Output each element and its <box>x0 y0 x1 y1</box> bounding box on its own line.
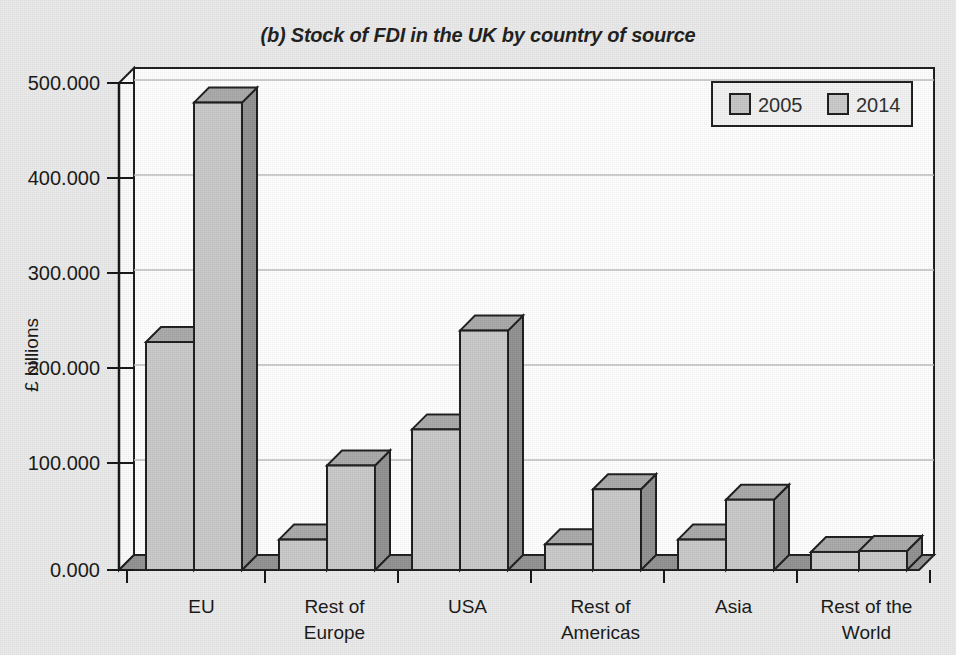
bar-side-face <box>375 451 390 571</box>
bar-front-face <box>460 331 508 570</box>
bar-2014-eu[interactable] <box>194 88 257 570</box>
y-axis-title: £ billions <box>21 318 42 392</box>
category-label-4: Asia <box>715 596 752 617</box>
bar-front-face <box>545 544 593 570</box>
category-label-3: Rest ofAmericas <box>561 596 640 643</box>
bar-front-face <box>146 342 194 570</box>
category-label-5: Rest of theWorld <box>821 596 913 643</box>
y-tick-label-300: 300.000 <box>28 262 100 284</box>
legend-label-2005: 2005 <box>758 94 803 116</box>
bar-2014-rest-of-americas[interactable] <box>593 474 656 570</box>
bar-2014-usa[interactable] <box>460 316 523 570</box>
category-label-0: EU <box>188 596 214 617</box>
legend-swatch-2014 <box>828 94 848 114</box>
plot-left-wall <box>119 68 134 570</box>
y-tick-label-100: 100.000 <box>28 452 100 474</box>
bar-front-face <box>811 552 859 570</box>
y-tick-label-0: 0.000 <box>50 559 100 581</box>
bar-front-face <box>593 489 641 570</box>
bar-front-face <box>279 540 327 570</box>
legend-label-2014: 2014 <box>856 94 901 116</box>
bar-front-face <box>678 540 726 570</box>
bar-front-face <box>412 429 460 570</box>
bar-2014-rest-of-europe[interactable] <box>327 451 390 571</box>
legend[interactable]: 2005 2014 <box>712 82 912 126</box>
category-label-1: Rest ofEurope <box>304 596 365 643</box>
category-label-2: USA <box>448 596 487 617</box>
y-tick-label-500: 500.000 <box>28 72 100 94</box>
bar-side-face <box>242 88 257 570</box>
legend-swatch-2005 <box>730 94 750 114</box>
bar-front-face <box>726 500 774 570</box>
x-axis-ticks <box>127 570 930 583</box>
bar-side-face <box>508 316 523 570</box>
y-tick-label-400: 400.000 <box>28 167 100 189</box>
bar-2014-asia[interactable] <box>726 485 789 570</box>
bar-front-face <box>194 103 242 570</box>
bar-front-face <box>327 466 375 571</box>
bar-chart-figure: 500.000 400.000 300.000 200.000 100.000 … <box>0 0 956 655</box>
bar-2014-rest-of-the-world[interactable] <box>859 536 922 570</box>
chart-page: (b) Stock of FDI in the UK by country of… <box>0 0 956 655</box>
bar-side-face <box>641 474 656 570</box>
category-labels: EURest ofEuropeUSARest ofAmericasAsiaRes… <box>188 596 912 643</box>
bar-front-face <box>859 551 907 570</box>
